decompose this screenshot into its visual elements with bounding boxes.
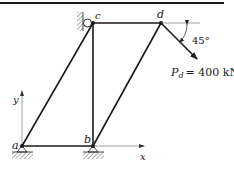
load-label: Pd= 400 kN	[170, 66, 234, 80]
ground-hatch-icon	[83, 152, 104, 159]
wall-hatch-icon	[77, 12, 83, 31]
member-ac	[22, 23, 93, 146]
ground-hatch-icon	[12, 152, 33, 159]
angle-label: 45°	[192, 35, 210, 46]
angle-arc-icon	[180, 24, 187, 42]
support-b-pin	[83, 146, 104, 159]
y-axis-label: y	[12, 94, 19, 105]
truss-diagram: y x a b c d 45°	[0, 0, 234, 179]
joint-b	[91, 144, 95, 148]
node-label-a: a	[12, 139, 19, 152]
coordinate-axes: y x	[12, 91, 146, 162]
truss-members	[22, 23, 161, 146]
node-label-d: d	[157, 8, 164, 21]
load-subscript: d	[178, 71, 183, 80]
node-label-c: c	[95, 10, 101, 21]
roller-icon	[84, 19, 92, 27]
load-pd: 45° Pd= 400 kN	[161, 23, 234, 80]
member-bd	[93, 23, 161, 146]
joint-a	[20, 144, 24, 148]
joints	[20, 21, 163, 148]
joint-c	[91, 21, 95, 25]
load-value: = 400 kN	[186, 66, 234, 79]
x-axis-label: x	[140, 151, 146, 162]
node-label-b: b	[84, 133, 91, 146]
